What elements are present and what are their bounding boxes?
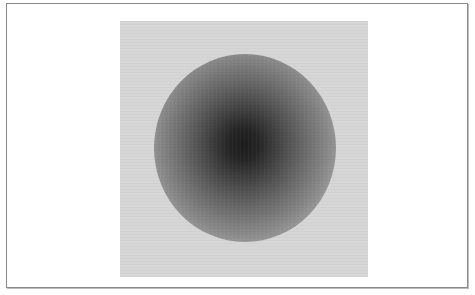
figure-frame — [6, 3, 468, 288]
radial-gradient-blob — [154, 54, 336, 242]
image-panel — [120, 21, 368, 277]
